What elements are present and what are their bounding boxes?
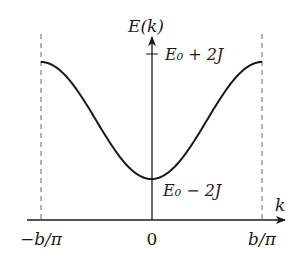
upper-level-label: E₀ + 2J: [164, 45, 225, 64]
x-tick-label-neg: −b/π: [20, 229, 63, 249]
dispersion-diagram: E(k) k E₀ + 2J E₀ − 2J −b/π 0 b/π: [0, 0, 305, 270]
x-tick-label-zero: 0: [147, 229, 158, 249]
lower-level-label: E₀ − 2J: [162, 181, 223, 200]
y-axis-label: E(k): [127, 16, 164, 36]
x-tick-label-pos: b/π: [248, 229, 277, 249]
x-axis-label: k: [275, 195, 285, 215]
